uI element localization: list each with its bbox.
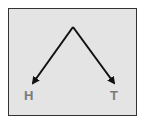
arrow-to-t: [73, 27, 114, 83]
arrow-to-h: [33, 27, 73, 83]
tree-arrows: [0, 0, 146, 122]
label-tails: T: [110, 89, 118, 102]
label-heads: H: [24, 89, 33, 102]
